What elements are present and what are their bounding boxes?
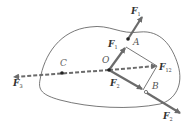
f1-top-vector: [128, 17, 142, 39]
label-point-b: B: [152, 82, 159, 91]
rigid-body-force-diagram: F1 F1 F2 F2 F3 F12 A O B C: [0, 0, 192, 135]
label-f1-top: F1: [131, 7, 141, 17]
point-b-circle: [144, 90, 147, 93]
f1-inner-vector: [109, 48, 125, 70]
label-f3: F3: [13, 79, 23, 89]
point-c-dot: [60, 71, 64, 75]
label-f2-inner: F2: [110, 79, 120, 89]
label-point-a: A: [133, 38, 140, 47]
label-f12: F12: [159, 63, 172, 73]
point-a-dot: [126, 37, 130, 41]
label-f1-inner: F1: [108, 40, 118, 50]
label-point-o: O: [102, 56, 109, 65]
label-point-c: C: [60, 59, 67, 68]
f2-bottom-vector: [147, 93, 180, 113]
parallelogram-edge-a: [126, 47, 157, 66]
f12-resultant-vector: [109, 66, 156, 70]
label-f2-bottom: F2: [163, 112, 173, 122]
point-o-dot: [107, 68, 111, 72]
